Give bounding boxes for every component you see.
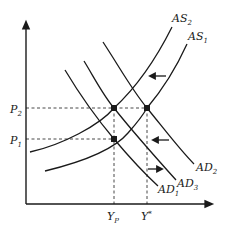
ad3-curve bbox=[84, 61, 176, 180]
ystar-label: Y* bbox=[141, 210, 152, 223]
ad1-label: AD1 bbox=[157, 183, 179, 198]
ad2-label: AD2 bbox=[195, 161, 218, 176]
equilibrium-point-yp-p1 bbox=[111, 136, 117, 142]
equilibrium-point-yp-p2 bbox=[111, 105, 117, 111]
p2-label: P2 bbox=[9, 103, 22, 118]
as1-label: AS1 bbox=[187, 30, 208, 45]
p1-label: P1 bbox=[9, 134, 22, 149]
ad2-curve bbox=[103, 42, 194, 164]
equilibrium-point-ystar-p2 bbox=[144, 105, 150, 111]
yp-label: YP bbox=[107, 210, 119, 225]
ad1-curve bbox=[65, 70, 158, 186]
ad3-label: AD3 bbox=[176, 177, 199, 192]
as-ad-diagram: AS2 AS1 AD2 AD3 AD1 P2 P1 YP Y* bbox=[0, 0, 229, 235]
as2-label: AS2 bbox=[171, 12, 192, 27]
